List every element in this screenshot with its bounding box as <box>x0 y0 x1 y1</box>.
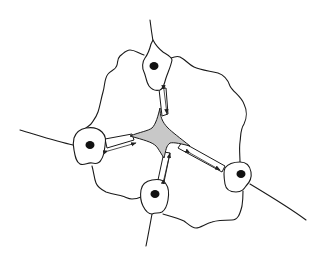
cell-network-diagram <box>0 0 326 258</box>
cell-body-right <box>224 162 251 192</box>
cell-bottom <box>141 180 169 214</box>
boundary-bottom-left <box>92 166 141 199</box>
left-fiber <box>20 130 73 145</box>
cell-left <box>73 128 105 165</box>
right-fiber <box>250 184 306 220</box>
nucleus-bottom <box>151 190 160 198</box>
cell-top <box>143 40 172 90</box>
nucleus-left <box>86 141 95 149</box>
boundary-bottom-right <box>163 191 243 228</box>
process-right <box>178 142 225 172</box>
top-fiber <box>150 20 153 41</box>
nucleus-right <box>237 170 246 178</box>
boundary-top-left <box>86 50 144 128</box>
bottom-fiber <box>146 214 152 246</box>
diagram-canvas <box>0 0 326 258</box>
cell-right <box>224 162 251 192</box>
central-region <box>130 108 190 158</box>
nucleus-top <box>150 62 159 70</box>
